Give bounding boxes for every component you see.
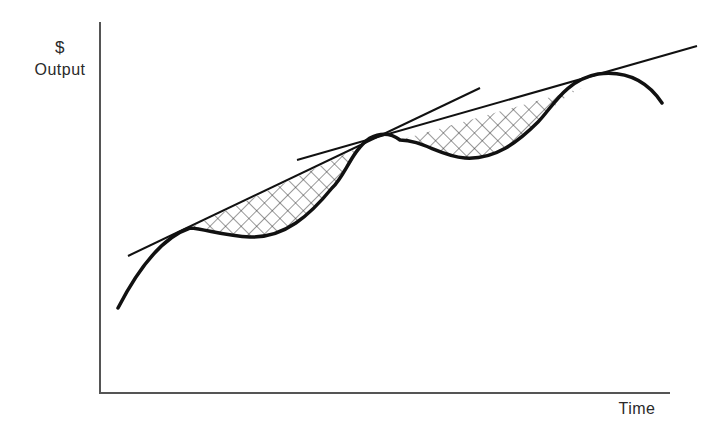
y-axis-currency-symbol: $: [40, 38, 80, 58]
output-gap-region-1: [190, 146, 362, 237]
x-axis-label: Time: [612, 400, 662, 418]
output-curve: [118, 73, 662, 308]
diagram-canvas: [0, 0, 717, 435]
output-gap-diagram: $ Output Time: [0, 0, 717, 435]
y-axis-label: Output: [20, 61, 100, 79]
